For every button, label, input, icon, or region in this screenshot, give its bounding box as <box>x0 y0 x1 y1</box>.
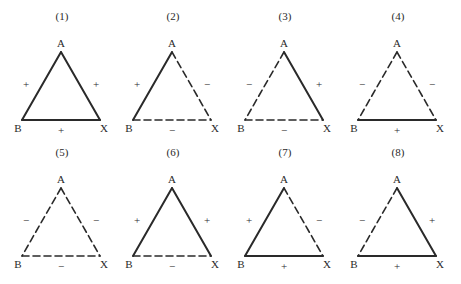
triangle-1: (1)ABX+++ <box>14 10 108 136</box>
sign-ax: + <box>429 214 435 226</box>
triangle-number: (3) <box>279 10 292 23</box>
vertex-label-x: X <box>323 258 331 270</box>
vertex-label-b: B <box>350 258 357 270</box>
sign-bx: − <box>58 260 64 272</box>
vertex-label-x: X <box>436 258 444 270</box>
vertex-label-a: A <box>393 173 401 185</box>
sign-ax: + <box>93 78 99 90</box>
vertex-label-b: B <box>237 122 244 134</box>
vertex-label-b: B <box>125 258 132 270</box>
sign-ax: + <box>204 214 210 226</box>
sign-bx: + <box>394 124 400 136</box>
vertex-label-a: A <box>280 37 288 49</box>
triangle-4: (4)ABX−−+ <box>350 10 444 136</box>
sign-bx: − <box>169 124 175 136</box>
vertex-label-a: A <box>393 37 401 49</box>
triangle-number: (8) <box>392 146 405 159</box>
sign-ax: + <box>316 78 322 90</box>
vertex-label-x: X <box>211 122 219 134</box>
sign-ab: + <box>134 214 140 226</box>
vertex-label-x: X <box>100 258 108 270</box>
vertex-label-a: A <box>280 173 288 185</box>
triangle-6: (6)ABX++− <box>125 146 219 272</box>
triangle-number: (6) <box>167 146 180 159</box>
triangle-number: (4) <box>392 10 405 23</box>
sign-ab: − <box>359 78 365 90</box>
sign-bx: − <box>281 124 287 136</box>
triangle-number: (5) <box>56 146 69 159</box>
sign-ab: − <box>359 214 365 226</box>
vertex-label-a: A <box>168 37 176 49</box>
sign-bx: + <box>58 124 64 136</box>
sign-ax: − <box>93 214 99 226</box>
vertex-label-b: B <box>14 122 21 134</box>
sign-ax: − <box>316 214 322 226</box>
sign-ab: − <box>23 214 29 226</box>
vertex-label-x: X <box>100 122 108 134</box>
vertex-label-x: X <box>211 258 219 270</box>
vertex-label-b: B <box>237 258 244 270</box>
triangle-3: (3)ABX−+− <box>237 10 331 136</box>
triangle-7: (7)ABX+−+ <box>237 146 331 272</box>
triangle-2: (2)ABX+−− <box>125 10 219 136</box>
sign-bx: + <box>394 260 400 272</box>
sign-bx: + <box>281 260 287 272</box>
triad-diagram: (1)ABX+++(2)ABX+−−(3)ABX−+−(4)ABX−−+(5)A… <box>0 0 461 284</box>
vertex-label-b: B <box>350 122 357 134</box>
vertex-label-a: A <box>57 173 65 185</box>
triangle-5: (5)ABX−−− <box>14 146 108 272</box>
triangle-8: (8)ABX−++ <box>350 146 444 272</box>
sign-bx: − <box>169 260 175 272</box>
vertex-label-a: A <box>57 37 65 49</box>
sign-ab: − <box>246 78 252 90</box>
sign-ax: − <box>429 78 435 90</box>
sign-ab: + <box>23 78 29 90</box>
vertex-label-a: A <box>168 173 176 185</box>
sign-ab: + <box>246 214 252 226</box>
sign-ax: − <box>204 78 210 90</box>
vertex-label-b: B <box>14 258 21 270</box>
triangle-number: (7) <box>279 146 292 159</box>
triangle-number: (2) <box>167 10 180 23</box>
vertex-label-b: B <box>125 122 132 134</box>
triangle-number: (1) <box>56 10 69 23</box>
sign-ab: + <box>134 78 140 90</box>
vertex-label-x: X <box>436 122 444 134</box>
vertex-label-x: X <box>323 122 331 134</box>
